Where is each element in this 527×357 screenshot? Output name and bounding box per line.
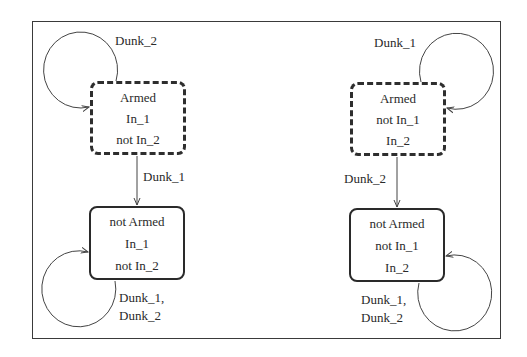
transition-label: Dunk_2	[361, 309, 403, 326]
transition-arrows	[0, 0, 527, 357]
transition-label: Dunk_1,	[361, 291, 406, 308]
state-line: In_2	[385, 260, 409, 275]
transition-label: Dunk_2	[115, 32, 157, 49]
transition-label: Dunk_1	[374, 34, 416, 51]
state-line: Armed	[380, 91, 416, 106]
state-line: not Armed	[369, 216, 424, 231]
state-not-armed-in2: not Armed not In_1 In_2	[349, 208, 445, 282]
transition-label: Dunk_1	[143, 168, 185, 185]
state-line: not In_2	[116, 132, 160, 147]
state-line: Armed	[120, 90, 156, 105]
state-line: In_2	[386, 133, 410, 148]
state-armed-in1: Armed In_1 not In_2	[90, 81, 186, 155]
state-line: In_1	[126, 111, 150, 126]
state-armed-in2: Armed not In_1 In_2	[350, 82, 446, 156]
state-line: not In_1	[375, 238, 419, 253]
transition-label: Dunk_2	[119, 307, 161, 324]
state-line: not In_2	[115, 258, 159, 273]
transition-label: Dunk_2	[344, 170, 386, 187]
state-line: In_1	[125, 236, 149, 251]
state-line: not In_1	[376, 112, 420, 127]
transition-label: Dunk_1,	[119, 289, 164, 306]
state-line: not Armed	[109, 214, 164, 229]
state-not-armed-in1: not Armed In_1 not In_2	[89, 206, 185, 280]
